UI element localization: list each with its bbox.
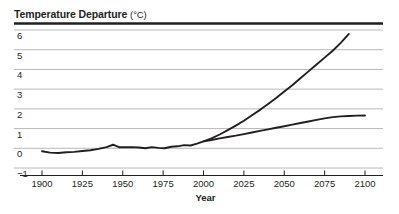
y-tick-label: 1 bbox=[17, 129, 22, 140]
x-tick-label: 1900 bbox=[31, 178, 52, 189]
y-tick-label: 4 bbox=[17, 69, 22, 80]
x-axis-title: Year bbox=[0, 192, 399, 203]
x-tick-label: 2100 bbox=[354, 178, 375, 189]
y-tick-label: 2 bbox=[17, 109, 22, 120]
plot-area: 6543210−1 190019251950197520002025205020… bbox=[0, 0, 399, 214]
x-tick-label: 2075 bbox=[314, 178, 335, 189]
y-tick-label: 5 bbox=[17, 50, 22, 61]
x-tick-label: 1975 bbox=[153, 178, 174, 189]
data-series bbox=[42, 34, 365, 153]
x-tick-label: 2050 bbox=[274, 178, 295, 189]
x-tick-label: 1925 bbox=[72, 178, 93, 189]
x-axis-tick-labels: 190019251950197520002025205020752100 bbox=[31, 178, 375, 189]
x-axis-title-text: Year bbox=[195, 192, 215, 203]
x-axis-ticks bbox=[42, 171, 365, 176]
temperature-departure-chart: Temperature Departure (°C) 6543210−1 190… bbox=[0, 0, 399, 214]
y-tick-label: 6 bbox=[17, 30, 22, 41]
x-tick-label: 1950 bbox=[112, 178, 133, 189]
y-tick-label: 0 bbox=[17, 148, 22, 159]
y-axis-tick-labels: 6543210−1 bbox=[17, 30, 28, 179]
gridlines bbox=[14, 30, 383, 168]
y-tick-label: −1 bbox=[17, 168, 28, 179]
x-tick-label: 2025 bbox=[233, 178, 254, 189]
y-tick-label: 3 bbox=[17, 89, 22, 100]
series-line-observed-and-high-projection bbox=[42, 34, 349, 153]
x-tick-label: 2000 bbox=[193, 178, 214, 189]
